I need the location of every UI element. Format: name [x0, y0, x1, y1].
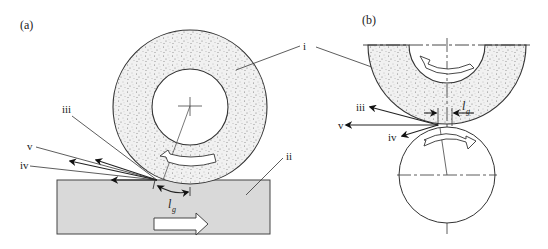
- callout-v: v: [27, 140, 33, 152]
- callout-iv: iv: [20, 159, 29, 171]
- panel-b-label: (b): [362, 13, 376, 27]
- callout-iii: iii: [62, 103, 71, 115]
- lg-subscript-b: g: [466, 107, 470, 116]
- leader-iv: [30, 166, 157, 180]
- panel-a-label: (a): [20, 18, 33, 32]
- grinding-diagram: (a) iii v iv l g: [0, 0, 548, 249]
- callout-v-b: v: [338, 119, 344, 131]
- panel-a: (a) iii v iv l g: [20, 18, 292, 235]
- lg-subscript: g: [172, 205, 176, 214]
- callout-iii-b: iii: [356, 101, 365, 113]
- callout-i: i: [303, 40, 306, 52]
- callout-ii: ii: [286, 150, 292, 162]
- panel-b: (b) l g iii v iv: [338, 13, 530, 234]
- callout-iv-b: iv: [388, 131, 397, 143]
